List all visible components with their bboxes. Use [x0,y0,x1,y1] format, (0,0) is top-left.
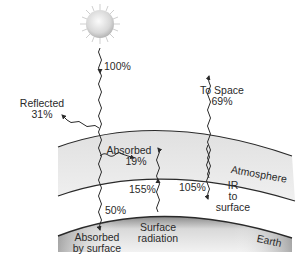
to-space-value: 69% [193,96,251,107]
absorbed-atmosphere-label: Absorbed 19% [103,145,155,167]
reflected-label: Reflected 31% [14,98,70,120]
surface-radiation-label: Surface radiation [133,222,183,244]
energy-balance-diagram: 100% Reflected 31% To Space 69% Absorbed… [0,0,304,263]
ir-to-surface-percent: 105% [179,182,206,193]
atmosphere-band [58,131,295,201]
reflected-value: 31% [14,109,70,120]
absorbed-by-surface-label: Absorbed by surface [70,232,124,254]
absorbed-surface-percent: 50% [105,205,126,216]
surface-radiation-percent: 155% [129,184,156,195]
surface-line: surface [210,202,256,213]
incoming-arrowhead [98,69,103,74]
to-space-label: To Space 69% [193,85,251,107]
by-surface-line: by surface [70,243,124,254]
sun-icon [80,4,120,44]
absorbed-atmosphere-value: 19% [103,156,155,167]
radiation-line: radiation [133,233,183,244]
ir-to-surface-label: IR to surface [210,180,256,213]
incoming-percent-label: 100% [104,61,131,72]
